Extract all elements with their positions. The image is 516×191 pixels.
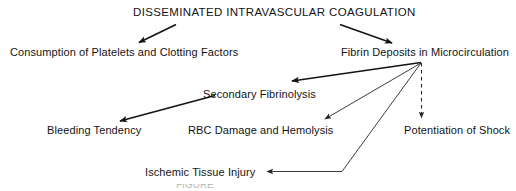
edge-fibrin-to-rbc (325, 63, 421, 119)
edge-title-to-consumption (139, 25, 176, 43)
edge-title-to-fibrin (340, 25, 392, 44)
node-fibrin-deposits: Fibrin Deposits in Microcirculation (341, 46, 509, 58)
figure-caption-text: FIGURE (176, 184, 214, 190)
node-ischemic-tissue-injury: Ischemic Tissue Injury (145, 166, 255, 178)
node-bleeding-tendency: Bleeding Tendency (47, 124, 141, 136)
edge-fibrinolysis-to-bleeding (120, 96, 215, 122)
node-dic-title: DISSEMINATED INTRAVASCULAR COAGULATION (133, 6, 416, 18)
edge-fibrin-to-ischemic (267, 63, 421, 172)
node-potentiation-of-shock: Potentiation of Shock (404, 124, 510, 136)
node-secondary-fibrinolysis: Secondary Fibrinolysis (203, 88, 316, 100)
edge-fibrin-to-fibrinolysis (292, 63, 421, 82)
node-rbc-damage-and-hemolysis: RBC Damage and Hemolysis (188, 124, 333, 136)
dic-pathophysiology-diagram: DISSEMINATED INTRAVASCULAR COAGULATION C… (0, 0, 516, 191)
node-consumption-of-platelets: Consumption of Platelets and Clotting Fa… (10, 46, 238, 58)
figure-caption-clipped: FIGURE (0, 184, 516, 191)
